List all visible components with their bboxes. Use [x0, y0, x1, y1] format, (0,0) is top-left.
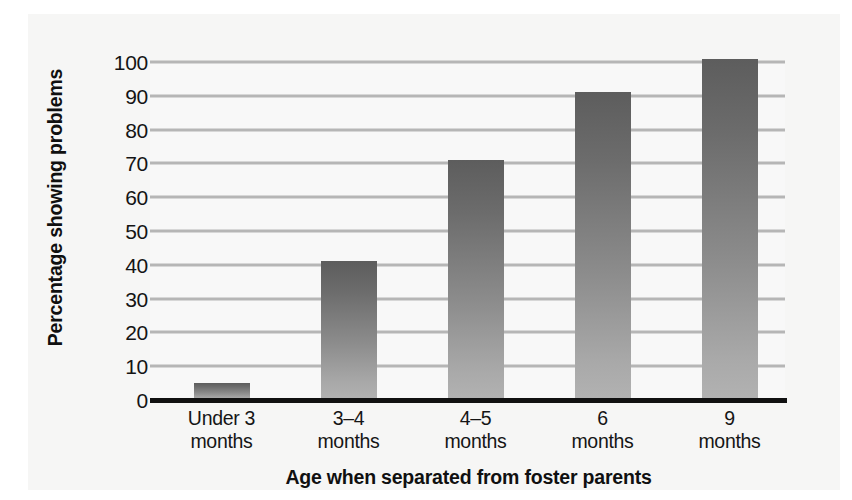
y-tick-label: 30 — [96, 288, 148, 309]
y-tick-label: 20 — [96, 322, 148, 343]
x-tick-label-line2: months — [412, 430, 539, 453]
x-tick-label-line1: 6 — [597, 407, 608, 429]
y-tick-label: 50 — [96, 221, 148, 242]
bar — [702, 59, 758, 400]
x-tick-label-line1: 3–4 — [333, 407, 365, 429]
x-axis-line — [150, 398, 787, 403]
x-tick-label-line2: months — [285, 430, 412, 453]
y-tick-label: 60 — [96, 187, 148, 208]
x-tick-label: 4–5months — [412, 407, 539, 453]
y-tick-label: 100 — [96, 52, 148, 73]
x-tick-label: 3–4months — [285, 407, 412, 453]
x-tick-label-line1: 9 — [724, 407, 735, 429]
y-tick-label: 70 — [96, 153, 148, 174]
y-tick-label: 80 — [96, 119, 148, 140]
y-tick-label: 0 — [96, 390, 148, 411]
y-tick-label: 40 — [96, 254, 148, 275]
y-tick-label: 90 — [96, 85, 148, 106]
bar — [448, 160, 504, 400]
y-tick-label: 10 — [96, 356, 148, 377]
x-tick-label-line2: months — [539, 430, 666, 453]
y-axis-title: Percentage showing problems — [44, 48, 67, 368]
plot-area — [150, 62, 785, 400]
x-axis-title: Age when separated from foster parents — [150, 466, 787, 489]
x-tick-label-line1: Under 3 — [188, 407, 255, 429]
x-axis-tick-labels: Under 3months3–4months4–5months6months9m… — [150, 407, 785, 463]
y-axis-tick-labels: 0102030405060708090100 — [96, 52, 148, 402]
bar — [321, 261, 377, 400]
x-tick-label-line2: months — [666, 430, 793, 453]
x-tick-label-line1: 4–5 — [460, 407, 492, 429]
x-tick-label: 6months — [539, 407, 666, 453]
x-tick-label: 9months — [666, 407, 793, 453]
bars-group — [150, 62, 785, 400]
bar — [575, 92, 631, 400]
x-tick-label-line2: months — [158, 430, 285, 453]
chart-page: Percentage showing problems 010203040506… — [0, 0, 852, 500]
x-tick-label: Under 3months — [158, 407, 285, 453]
